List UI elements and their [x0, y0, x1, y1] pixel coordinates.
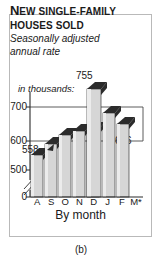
x-label-4: D — [87, 196, 101, 207]
bar-series — [31, 82, 135, 197]
x-label-2: O — [58, 196, 72, 207]
plot-area: in thousands: 700 600 500 0 558 755 666 — [9, 14, 152, 237]
x-label-1: S — [44, 196, 58, 207]
x-label-0: A — [30, 196, 44, 207]
figure-panel: NEW SINGLE-FAMILY HOUSES SOLD Seasonally… — [0, 0, 162, 268]
figure-caption: (b) — [0, 244, 162, 255]
x-label-7: M* — [129, 196, 143, 207]
x-axis-title: By month — [9, 208, 152, 222]
x-label-6: F — [115, 196, 129, 207]
x-axis-tick-labels: A S O N D J F M* — [30, 196, 143, 207]
x-label-3: N — [72, 196, 86, 207]
x-label-5: J — [101, 196, 115, 207]
bar-M — [117, 117, 135, 197]
